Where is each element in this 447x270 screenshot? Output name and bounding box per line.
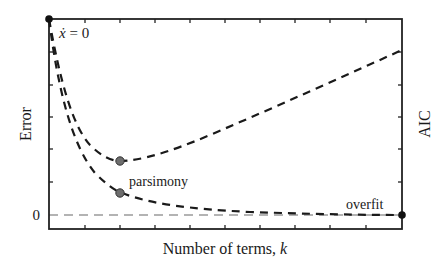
- aic-minimum-dot: [116, 157, 124, 165]
- y-tick-label-zero: 0: [33, 207, 41, 223]
- y-axis-label-right: AIC: [416, 110, 433, 138]
- y-axis-label-left: Error: [17, 106, 34, 140]
- aic-curve: [49, 19, 402, 161]
- start-dot: [45, 15, 53, 23]
- overfit-label: overfit: [346, 197, 383, 212]
- x-axis-label-var: k: [280, 240, 288, 257]
- x-axis-label-text: Number of terms,: [163, 240, 280, 257]
- x-axis-label: Number of terms, k: [163, 240, 288, 257]
- error-curve: [49, 19, 402, 215]
- x-ticks: [85, 19, 366, 229]
- parsimony-label: parsimony: [129, 174, 188, 189]
- error-parsimony-dot: [116, 189, 124, 197]
- overfit-dot: [398, 211, 406, 219]
- y-ticks: [49, 52, 402, 182]
- xdot-zero-annotation: ẋ = 0: [58, 25, 89, 41]
- chart: ẋ = 0 parsimony overfit 0 Error AIC Numb…: [0, 0, 447, 270]
